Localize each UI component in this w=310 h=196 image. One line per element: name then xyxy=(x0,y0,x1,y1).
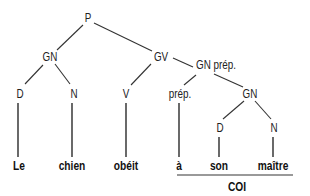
node-v: V xyxy=(123,88,130,100)
word-a: à xyxy=(176,160,182,172)
edge-p-gv xyxy=(94,23,152,51)
edge-gn-n xyxy=(55,64,70,84)
node-gn-object: GN xyxy=(243,88,258,100)
word-chien: chien xyxy=(59,160,86,172)
syntax-tree-diagram: P GN GV GN prép. D N V prép. GN D N Le c… xyxy=(0,0,310,196)
edge-p-gn xyxy=(57,25,83,50)
edge-gnprep-prep xyxy=(184,75,196,85)
word-son: son xyxy=(210,160,228,172)
node-prep: prép. xyxy=(169,88,191,100)
node-gn-subject: GN xyxy=(43,51,58,63)
edge-gv-gnprep xyxy=(173,58,193,67)
node-gn-prep: GN prép. xyxy=(196,59,236,71)
edge-gv-v xyxy=(131,64,151,85)
word-le: Le xyxy=(13,160,25,172)
node-gv: GV xyxy=(154,51,168,63)
edge-gn-d xyxy=(25,65,43,84)
node-p: P xyxy=(85,12,92,24)
node-d-object: D xyxy=(216,122,223,134)
node-n-subject: N xyxy=(70,88,77,100)
edge-gnobj-n xyxy=(255,101,271,119)
coi-label: COI xyxy=(228,181,246,193)
node-d-subject: D xyxy=(16,88,23,100)
word-maitre: maître xyxy=(258,160,289,172)
word-obeit: obéit xyxy=(114,160,138,172)
node-n-object: N xyxy=(270,122,277,134)
edge-gnprep-gn xyxy=(214,74,243,87)
edge-gnobj-d xyxy=(223,101,244,119)
